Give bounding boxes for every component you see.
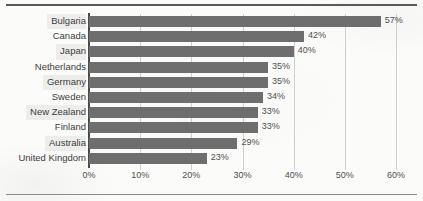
category-label: Canada — [53, 29, 86, 44]
bar — [89, 138, 237, 149]
bar-row: 35% — [89, 60, 396, 75]
bar-value-label: 42% — [308, 28, 326, 43]
bar-value-label: 57% — [385, 13, 403, 28]
bar-row: 57% — [89, 14, 396, 29]
bar — [89, 153, 207, 164]
bar-row: 23% — [89, 151, 396, 166]
category-label: Netherlands — [35, 60, 86, 75]
x-axis-tick-labels: 0%10%20%30%40%50%60% — [89, 170, 396, 184]
bar-value-label: 33% — [262, 104, 280, 119]
x-tick-label: 60% — [387, 170, 405, 180]
bar — [89, 16, 381, 27]
bar-row: 33% — [89, 105, 396, 120]
bar-row: 40% — [89, 44, 396, 59]
bar-value-label: 34% — [267, 89, 285, 104]
bar-row: 42% — [89, 29, 396, 44]
bar-value-label: 35% — [272, 59, 290, 74]
category-label: Finland — [55, 120, 86, 135]
category-label: New Zealand — [26, 105, 86, 120]
bar — [89, 77, 268, 88]
bar-row: 35% — [89, 75, 396, 90]
category-axis-labels: BulgariaCanadaJapanNetherlandsGermanySwe… — [0, 14, 86, 166]
category-label: United Kingdom — [18, 151, 86, 166]
bar — [89, 92, 263, 103]
bar — [89, 31, 304, 42]
bar-row: 33% — [89, 120, 396, 135]
x-tick-label: 20% — [182, 170, 200, 180]
x-tick-label: 30% — [233, 170, 251, 180]
gridline — [396, 14, 397, 170]
x-tick-label: 0% — [82, 170, 95, 180]
x-tick-label: 40% — [285, 170, 303, 180]
category-label: Bulgaria — [47, 14, 86, 29]
bottom-divider-rule — [6, 194, 417, 195]
bars-layer: 57%42%40%35%35%34%33%33%29%23% — [89, 14, 396, 166]
top-divider-rule — [6, 4, 417, 6]
bar-value-label: 33% — [262, 119, 280, 134]
bar-value-label: 35% — [272, 74, 290, 89]
bar — [89, 62, 268, 73]
bar-chart-figure: BulgariaCanadaJapanNetherlandsGermanySwe… — [0, 0, 423, 201]
bar-value-label: 23% — [211, 150, 229, 165]
category-label: Australia — [45, 136, 86, 151]
bar — [89, 122, 258, 133]
x-tick-label: 50% — [336, 170, 354, 180]
bar-value-label: 29% — [241, 135, 259, 150]
bar-row: 29% — [89, 136, 396, 151]
x-tick-label: 10% — [131, 170, 149, 180]
category-label: Germany — [43, 75, 86, 90]
bar — [89, 46, 294, 57]
bar — [89, 107, 258, 118]
category-label: Japan — [56, 44, 86, 59]
bar-value-label: 40% — [298, 43, 316, 58]
plot-area: 57%42%40%35%35%34%33%33%29%23% — [89, 14, 396, 166]
category-label: Sweden — [52, 90, 86, 105]
bar-row: 34% — [89, 90, 396, 105]
